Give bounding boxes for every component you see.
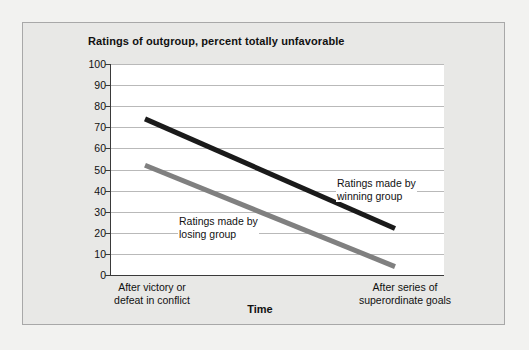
gridline	[111, 127, 444, 128]
y-axis-tick-mark	[105, 85, 110, 86]
y-axis-tick-mark	[105, 212, 110, 213]
gridline	[111, 170, 444, 171]
y-axis-tick-label: 100	[80, 58, 106, 70]
y-axis-tick-label: 0	[80, 269, 106, 281]
y-axis-tick-mark	[105, 64, 110, 65]
y-axis-tick-label: 80	[80, 100, 106, 112]
gridline	[111, 64, 444, 65]
gridline	[111, 233, 444, 234]
y-axis-tick-label: 60	[80, 142, 106, 154]
y-axis-tick-mark	[105, 275, 110, 276]
plot-area	[110, 64, 444, 276]
y-axis-tick-label: 50	[80, 164, 106, 176]
gridline	[111, 254, 444, 255]
series-annotation-losing-group: Ratings made by losing group	[178, 215, 259, 240]
chart-figure-page: Ratings of outgroup, percent totally unf…	[0, 0, 529, 350]
y-axis-tick-label: 40	[80, 185, 106, 197]
series-annotation-winning-group: Ratings made by winning group	[336, 177, 417, 202]
gridline	[111, 148, 444, 149]
y-axis-tick-labels: 1009080706050403020100	[78, 64, 106, 275]
y-axis-tick-label: 70	[80, 121, 106, 133]
chart-title: Ratings of outgroup, percent totally unf…	[88, 35, 345, 47]
y-axis-tick-mark	[105, 127, 110, 128]
x-axis-category-label-right: After series of superordinate goals	[340, 281, 470, 306]
y-axis-tick-label: 20	[80, 227, 106, 239]
x-axis-category-label-left: After victory or defeat in conflict	[92, 281, 212, 306]
y-axis-tick-mark	[105, 106, 110, 107]
y-axis-tick-label: 10	[80, 248, 106, 260]
y-axis-tick-mark	[105, 170, 110, 171]
y-axis-tick-mark	[105, 148, 110, 149]
gridline	[111, 106, 444, 107]
y-axis-tick-mark	[105, 254, 110, 255]
gridline	[111, 85, 444, 86]
y-axis-tick-mark	[105, 233, 110, 234]
y-axis-tick-label: 90	[80, 79, 106, 91]
y-axis-tick-label: 30	[80, 206, 106, 218]
y-axis-tick-mark	[105, 191, 110, 192]
gridline	[111, 212, 444, 213]
x-axis-title: Time	[200, 303, 320, 315]
